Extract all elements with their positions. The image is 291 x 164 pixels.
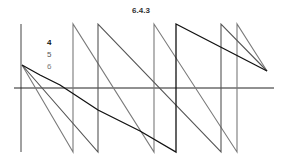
legend-label-4: 4 <box>47 38 52 47</box>
legend-label-5: 5 <box>47 50 52 59</box>
chart-title: 6.4.3 <box>132 6 150 15</box>
legend: 4 5 6 <box>47 38 52 71</box>
legend-label-6: 6 <box>47 62 52 71</box>
chart: 6.4.3 4 5 6 <box>0 0 291 164</box>
